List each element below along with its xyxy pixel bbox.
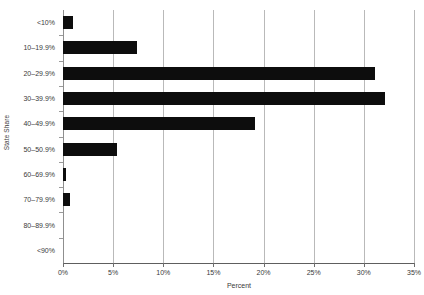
y-axis-minor-tick bbox=[59, 212, 63, 213]
y-axis-minor-tick bbox=[59, 35, 63, 36]
bar bbox=[63, 143, 117, 156]
x-axis-tick-label: 5% bbox=[108, 269, 118, 276]
y-axis-tick-label: 10–19.9% bbox=[12, 35, 59, 60]
x-axis-tick-label: 10% bbox=[156, 269, 170, 276]
y-axis-tick-label: 70–79.9% bbox=[12, 187, 59, 212]
x-axis-tick-label: 25% bbox=[307, 269, 321, 276]
x-axis-tick bbox=[163, 263, 164, 267]
x-axis-tick-label: 20% bbox=[257, 269, 271, 276]
y-axis-tick-label: 20–29.9% bbox=[12, 61, 59, 86]
y-axis-minor-tick bbox=[59, 238, 63, 239]
x-axis-tick-label: 30% bbox=[357, 269, 371, 276]
y-axis-tick-label: 80–89.9% bbox=[12, 212, 59, 237]
bar-slot bbox=[63, 238, 414, 263]
gridline bbox=[414, 10, 415, 263]
x-axis-tick bbox=[213, 263, 214, 267]
bar-slot bbox=[63, 136, 414, 161]
y-axis-tick-label: 60–69.9% bbox=[12, 162, 59, 187]
y-axis-tick-label: <90% bbox=[12, 238, 59, 263]
bar bbox=[63, 193, 70, 206]
bar-slot bbox=[63, 187, 414, 212]
x-axis-title: Percent bbox=[63, 282, 415, 289]
x-axis-tick bbox=[264, 263, 265, 267]
bar bbox=[63, 16, 73, 29]
x-axis-tick-label: 0% bbox=[58, 269, 68, 276]
x-axis-tick-label: 35% bbox=[407, 269, 421, 276]
bar bbox=[63, 41, 137, 54]
y-axis-minor-tick bbox=[59, 61, 63, 62]
x-axis-tick bbox=[63, 263, 64, 267]
bar-slot bbox=[63, 86, 414, 111]
bar-slot bbox=[63, 61, 414, 86]
bar bbox=[63, 92, 385, 105]
y-axis-minor-tick bbox=[59, 111, 63, 112]
bar-slot bbox=[63, 212, 414, 237]
x-axis-tick-label: 15% bbox=[206, 269, 220, 276]
bar-chart: State Share <10%10–19.9%20–29.9%30–39.9%… bbox=[0, 0, 424, 295]
bar bbox=[63, 117, 255, 130]
y-axis-minor-tick bbox=[59, 86, 63, 87]
bar-slot bbox=[63, 10, 414, 35]
y-axis-tick-label: <10% bbox=[12, 10, 59, 35]
bar-slot bbox=[63, 111, 414, 136]
x-axis-tick bbox=[113, 263, 114, 267]
y-axis-tick-label: 40–49.9% bbox=[12, 111, 59, 136]
x-axis-tick bbox=[414, 263, 415, 267]
y-axis-tick-label: 30–39.9% bbox=[12, 86, 59, 111]
bar-slot bbox=[63, 162, 414, 187]
x-axis-tick bbox=[364, 263, 365, 267]
plot-area bbox=[63, 10, 414, 263]
y-axis-minor-tick bbox=[59, 187, 63, 188]
bars-layer bbox=[63, 10, 414, 263]
bar-slot bbox=[63, 35, 414, 60]
y-axis-tick-labels: <10%10–19.9%20–29.9%30–39.9%40–49.9%50–5… bbox=[12, 10, 59, 263]
y-axis-minor-tick bbox=[59, 137, 63, 138]
bar bbox=[63, 67, 375, 80]
y-axis-title-label: State Share bbox=[4, 115, 11, 150]
x-axis-tick bbox=[314, 263, 315, 267]
x-axis-line bbox=[63, 263, 415, 264]
bar bbox=[63, 168, 66, 181]
y-axis-tick-label: 50–50.9% bbox=[12, 136, 59, 161]
y-axis-minor-tick bbox=[59, 162, 63, 163]
